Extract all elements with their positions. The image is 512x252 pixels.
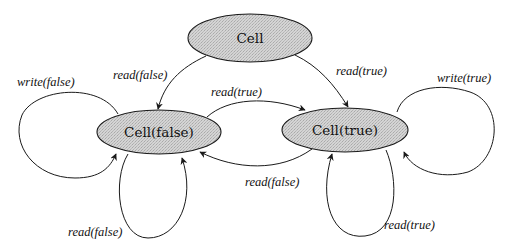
edge-label-cell-true-loop-read: read(true) [384,218,435,232]
edge-cell-true-loop-write [397,87,494,174]
edge-cell-to-cell-false [158,56,206,109]
node-cell-true-label: Cell(true) [312,122,378,138]
edge-label-cell-false-to-cell-true: read(true) [211,85,262,99]
edge-label-cell-true-loop-write: write(true) [437,71,491,85]
node-cell: Cell [188,14,312,62]
edge-label-cell-false-loop-read: read(false) [68,225,122,239]
state-diagram: Cell Cell(false) Cell(true) read(false) … [0,0,512,252]
edge-label-cell-true-to-cell-false: read(false) [245,175,299,189]
edge-label-cell-to-cell-false: read(false) [113,68,167,82]
node-cell-label: Cell [237,30,264,46]
edge-cell-true-to-cell-false [200,149,312,166]
edge-label-cell-to-cell-true: read(true) [336,64,387,78]
node-cell-false: Cell(false) [97,110,221,154]
node-cell-true: Cell(true) [282,108,408,152]
edge-cell-false-to-cell-true [207,101,305,117]
node-cell-false-label: Cell(false) [124,124,194,140]
edge-label-cell-false-loop-write: write(false) [17,75,75,89]
edge-cell-false-loop-read [119,154,186,238]
edge-cell-to-cell-true [295,55,348,107]
